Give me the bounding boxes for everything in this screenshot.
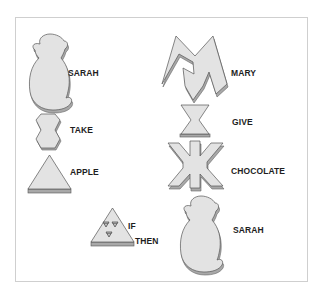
sarah-token-icon — [179, 194, 225, 274]
then-label: THEN — [135, 237, 159, 246]
sarah-label: SARAH — [233, 226, 264, 235]
apple-label: APPLE — [70, 168, 99, 177]
take-label: TAKE — [70, 126, 93, 135]
if-label: IF — [128, 222, 136, 231]
take-token-icon — [33, 113, 65, 151]
give-token-icon — [178, 104, 214, 140]
give-label: GIVE — [232, 118, 253, 127]
chocolate-label: CHOCOLATE — [231, 167, 285, 176]
apple-token-icon — [27, 154, 73, 198]
mary-token-icon — [161, 34, 231, 106]
sarah-label: SARAH — [68, 69, 99, 78]
chocolate-token-icon — [167, 140, 227, 194]
mary-label: MARY — [231, 69, 256, 78]
